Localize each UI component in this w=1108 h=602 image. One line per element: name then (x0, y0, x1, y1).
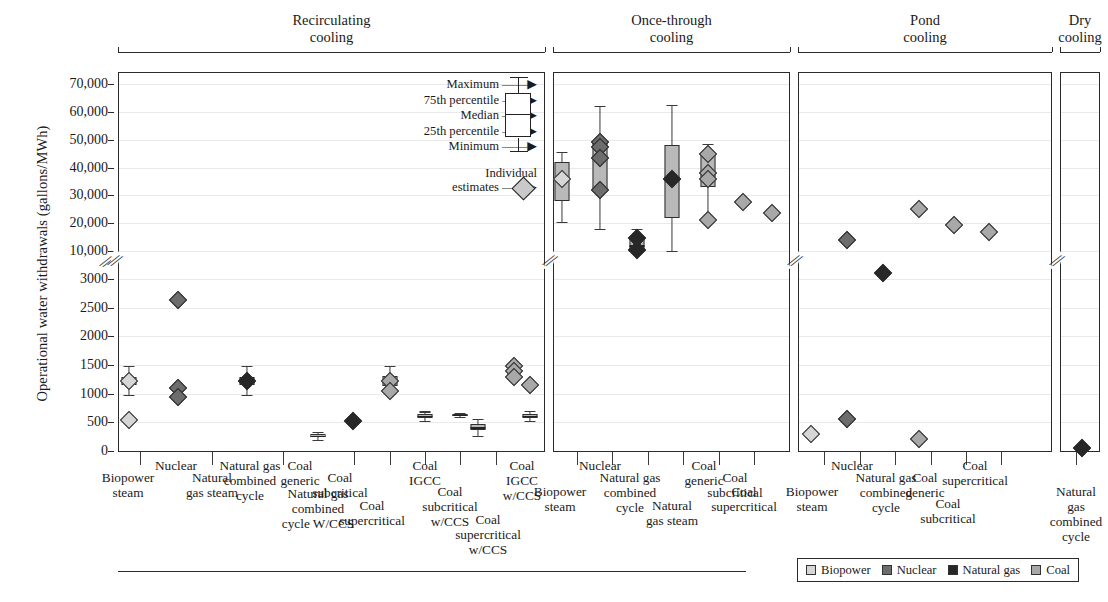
boxplot-median (453, 415, 468, 416)
gridline (799, 422, 1051, 423)
box-key-row-0: Maximum ——▶ (392, 78, 537, 91)
y-tick-label-upper-2: 50,000 (46, 133, 108, 147)
gridline (554, 279, 789, 280)
gridline (1061, 223, 1099, 224)
legend-label: Coal (1046, 563, 1070, 578)
whisker-cap-max (420, 411, 431, 412)
category-label: Coal supercritical (706, 484, 782, 514)
gridline (799, 336, 1051, 337)
whisker-cap-max (557, 152, 568, 153)
y-tick-mark (108, 279, 114, 280)
gridline (1061, 84, 1099, 85)
y-tick-mark (108, 112, 114, 113)
category-label: Biopower steam (783, 484, 841, 514)
category-separator (354, 452, 355, 465)
category-label: Natural gas steam (645, 498, 699, 528)
y-tick-label-lower-1: 2500 (46, 301, 108, 315)
gridline (554, 336, 789, 337)
y-tick-mark (108, 223, 114, 224)
legend-swatch-icon (882, 565, 892, 575)
y-tick-label-upper-3: 40,000 (46, 161, 108, 175)
group-title-line1: Dry (1000, 12, 1108, 29)
y-tick-label-lower-2: 2000 (46, 329, 108, 343)
group-header-tick (545, 47, 546, 52)
group-header-tick (1060, 47, 1061, 52)
category-separator (648, 452, 649, 465)
category-label: Coal subcritical (917, 496, 979, 526)
group-title-line2: cooling (1000, 29, 1108, 46)
category-label: Coal supercritical w/CCS (450, 512, 526, 557)
boxplot-median (523, 416, 538, 417)
legend-item-coal[interactable]: Coal (1031, 563, 1070, 578)
y-tick-label-upper-1: 60,000 (46, 105, 108, 119)
group-header-tick (1100, 47, 1101, 52)
gridline (119, 251, 544, 252)
gridline (1061, 140, 1099, 141)
gridline (554, 308, 789, 309)
legend-item-biopower[interactable]: Biopower (806, 563, 871, 578)
y-tick-label-lower-0: 3000 (46, 272, 108, 286)
legend-item-nuclear[interactable]: Nuclear (882, 563, 937, 578)
gridline (554, 394, 789, 395)
group-header-rule-dry (1060, 52, 1100, 53)
group-header-tick (118, 47, 119, 52)
y-tick-mark (108, 308, 114, 309)
whisker-cap-max (385, 366, 396, 367)
gridline (1061, 195, 1099, 196)
category-label: Coal supercritical (334, 498, 410, 528)
gridline (799, 112, 1051, 113)
legend-swatch-icon (806, 565, 816, 575)
y-tick-label-upper-6: 10,000 (46, 244, 108, 258)
whisker-cap-min (667, 251, 678, 252)
gridline (799, 84, 1051, 85)
y-tick-label-lower-6: 0 (46, 444, 108, 458)
gridline (1061, 422, 1099, 423)
chart-root: Operational water withdrawals (gallons/M… (0, 0, 1108, 602)
whisker-cap-min (420, 421, 431, 422)
legend-swatch-icon (1031, 565, 1041, 575)
y-tick-mark (108, 336, 114, 337)
whisker-cap-min (557, 222, 568, 223)
gridline (1061, 112, 1099, 113)
boxplot-median (311, 436, 326, 437)
whisker-cap-max (525, 411, 536, 412)
key-whisker-cap-lower (510, 151, 528, 152)
gridline (1061, 308, 1099, 309)
series-legend: BiopowerNuclearNatural gasCoal (797, 558, 1079, 582)
gridline (554, 422, 789, 423)
y-tick-mark (108, 422, 114, 423)
whisker-cap-max (313, 432, 324, 433)
legend-item-natural-gas[interactable]: Natural gas (948, 563, 1021, 578)
gridline (119, 308, 544, 309)
group-header-tick (553, 47, 554, 52)
plot-panel-pond (798, 72, 1052, 452)
key-whisker-lower (518, 138, 519, 151)
category-separator (754, 452, 755, 465)
group-header-rule-recirculating (118, 52, 545, 53)
y-tick-mark (108, 168, 114, 169)
legend-label: Nuclear (897, 563, 937, 578)
key-whisker-cap-upper (510, 77, 528, 78)
key-median-line (506, 114, 530, 115)
y-tick-label-lower-3: 1500 (46, 358, 108, 372)
gridline (119, 336, 544, 337)
group-header-tick (790, 47, 791, 52)
group-header-tick (798, 47, 799, 52)
key-whisker-upper (518, 77, 519, 94)
axis-baseline-rule (118, 571, 746, 572)
category-label: Natural gas combined cycle (1048, 484, 1104, 545)
gridline (1061, 394, 1099, 395)
gridline (799, 168, 1051, 169)
y-axis-tick-labels: 70,00060,00050,00040,00030,00020,00010,0… (42, 0, 108, 602)
category-separator (390, 452, 391, 465)
individual-estimates-line1: Individual (392, 166, 537, 180)
gridline (799, 223, 1051, 224)
gridline (1061, 365, 1099, 366)
plot-panel-dry (1060, 72, 1100, 452)
whisker-cap-min (473, 436, 484, 437)
gridline (554, 84, 789, 85)
gridline (119, 365, 544, 366)
category-separator (895, 452, 896, 465)
category-separator (140, 452, 141, 465)
y-tick-label-lower-5: 500 (46, 415, 108, 429)
